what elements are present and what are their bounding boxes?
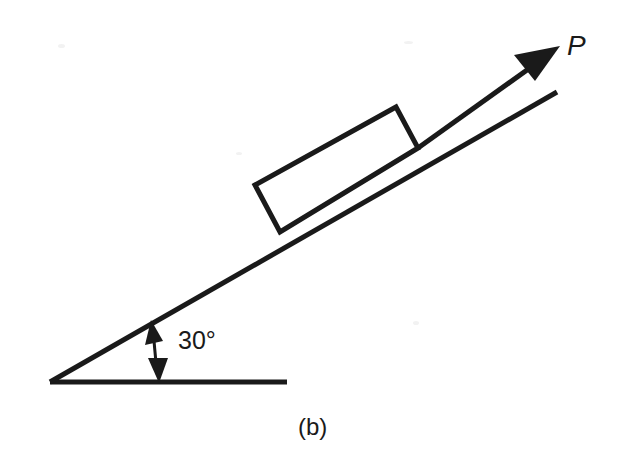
angle-dimension-arrowhead-bottom	[148, 358, 168, 383]
figure-caption: (b)	[298, 413, 327, 440]
angle-label: 30°	[178, 326, 216, 354]
figure-container: 30° P (b)	[0, 0, 621, 463]
force-label-p: P	[567, 30, 586, 61]
block-on-incline	[255, 107, 418, 232]
inclined-plane-diagram: 30° P (b)	[0, 0, 621, 463]
inclined-surface-line	[50, 92, 557, 382]
